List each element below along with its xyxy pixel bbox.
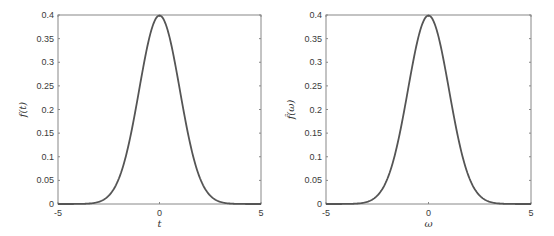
plot-right-frequency-domain: 00.050.10.150.20.250.30.350.4-505ωf̂(ω) <box>285 10 534 229</box>
y-tick-label: 0.3 <box>41 57 54 67</box>
y-tick-label: 0.35 <box>36 34 54 44</box>
y-tick-label: 0.4 <box>41 10 54 20</box>
gaussian-curve <box>326 16 531 205</box>
x-tick-label: 5 <box>258 208 263 218</box>
axes-box <box>58 15 261 204</box>
x-axis-label: ω <box>424 218 432 229</box>
x-tick-label: 0 <box>426 208 431 218</box>
plot-left-time-domain: 00.050.10.150.20.250.30.350.4-505tf(t) <box>17 10 264 229</box>
y-tick-label: 0.35 <box>304 34 322 44</box>
y-axis-label: f̂(ω) <box>285 100 296 121</box>
y-tick-label: 0.1 <box>309 152 322 162</box>
gaussian-curve <box>58 16 261 205</box>
x-tick-label: 5 <box>528 208 533 218</box>
y-tick-label: 0.15 <box>36 128 54 138</box>
figure: 00.050.10.150.20.250.30.350.4-505tf(t) 0… <box>0 0 554 236</box>
y-tick-label: 0.25 <box>36 81 54 91</box>
y-tick-label: 0.1 <box>41 152 54 162</box>
y-tick-label: 0.2 <box>309 105 322 115</box>
y-tick-label: 0.05 <box>304 175 322 185</box>
x-tick-label: -5 <box>322 208 330 218</box>
x-tick-label: -5 <box>54 208 62 218</box>
y-tick-label: 0.25 <box>304 81 322 91</box>
y-tick-label: 0.15 <box>304 128 322 138</box>
y-tick-label: 0.4 <box>309 10 322 20</box>
x-axis-label: t <box>157 218 162 229</box>
y-tick-label: 0.2 <box>41 105 54 115</box>
y-tick-label: 0.3 <box>309 57 322 67</box>
y-axis-label: f(t) <box>17 102 28 119</box>
x-tick-label: 0 <box>157 208 162 218</box>
axes-box <box>326 15 531 204</box>
y-tick-label: 0.05 <box>36 175 54 185</box>
